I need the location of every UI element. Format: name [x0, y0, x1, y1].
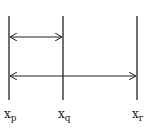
label-xp: xp — [4, 107, 17, 123]
interval-diagram: xp xq xr — [0, 0, 152, 134]
label-xq: xq — [58, 107, 71, 123]
label-xr: xr — [132, 107, 144, 123]
